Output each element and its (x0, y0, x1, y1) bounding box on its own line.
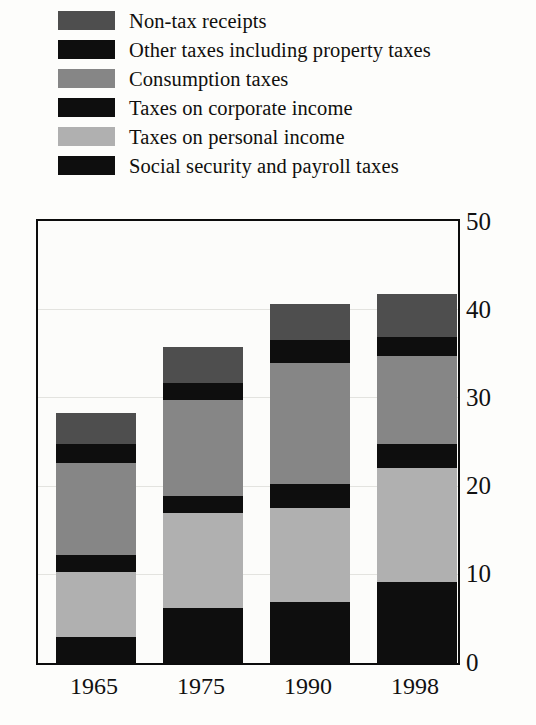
legend-item[interactable]: Non-tax receipts (58, 6, 498, 35)
y-tick-label: 20 (466, 473, 491, 498)
bar-1998[interactable] (377, 294, 457, 663)
bar-segment (56, 555, 136, 573)
legend-swatch-icon (58, 40, 115, 59)
legend-swatch-icon (58, 11, 115, 30)
bar-segment (56, 637, 136, 663)
plot-area (36, 219, 460, 665)
x-tick-label: 1975 (161, 672, 241, 700)
bar-segment (270, 484, 350, 508)
legend-swatch-icon (58, 127, 115, 146)
legend-item-label: Taxes on personal income (129, 126, 345, 148)
legend-item-label: Taxes on corporate income (129, 97, 353, 119)
bar-segment (377, 294, 457, 336)
bar-segment (56, 444, 136, 463)
x-tick-label: 1965 (54, 672, 134, 700)
bar-segment (163, 496, 243, 513)
stacked-bar-chart-figure: Non-tax receiptsOther taxes including pr… (0, 0, 536, 725)
legend-item[interactable]: Taxes on corporate income (58, 93, 498, 122)
bar-1990[interactable] (270, 304, 350, 663)
bar-segment (163, 513, 243, 608)
bar-segment (163, 608, 243, 663)
x-tick-label: 1998 (375, 672, 455, 700)
legend-swatch-icon (58, 69, 115, 88)
bar-segment (377, 582, 457, 663)
y-tick-label: 50 (466, 209, 491, 234)
bar-segment (270, 340, 350, 363)
bar-1965[interactable] (56, 413, 136, 663)
legend-item-label: Consumption taxes (129, 68, 288, 90)
chart-legend: Non-tax receiptsOther taxes including pr… (58, 6, 498, 180)
bar-segment (377, 337, 457, 356)
legend-item-label: Social security and payroll taxes (129, 155, 399, 177)
legend-item[interactable]: Other taxes including property taxes (58, 35, 498, 64)
y-tick-label: 10 (466, 561, 491, 586)
y-axis: 50403020100 (466, 200, 532, 690)
bar-segment (56, 463, 136, 555)
y-tick-label: 0 (466, 650, 479, 675)
legend-item[interactable]: Taxes on personal income (58, 122, 498, 151)
bar-segment (377, 444, 457, 468)
bar-segment (377, 468, 457, 582)
bar-segment (270, 602, 350, 663)
bar-segment (56, 572, 136, 637)
bar-segment (163, 347, 243, 383)
legend-swatch-icon (58, 98, 115, 117)
x-axis: 1965197519901998 (36, 672, 460, 712)
x-tick-label: 1990 (268, 672, 348, 700)
bar-group (38, 221, 458, 663)
y-tick-label: 40 (466, 297, 491, 322)
bar-segment (270, 304, 350, 340)
legend-swatch-icon (58, 156, 115, 175)
bar-segment (163, 383, 243, 400)
bar-segment (56, 413, 136, 445)
legend-item[interactable]: Consumption taxes (58, 64, 498, 93)
bar-segment (270, 508, 350, 602)
legend-item[interactable]: Social security and payroll taxes (58, 151, 498, 180)
y-tick-label: 30 (466, 385, 491, 410)
bar-1975[interactable] (163, 347, 243, 663)
legend-item-label: Non-tax receipts (129, 10, 267, 32)
legend-item-label: Other taxes including property taxes (129, 39, 431, 61)
bar-segment (270, 363, 350, 484)
bar-segment (377, 356, 457, 444)
bar-segment (163, 400, 243, 496)
